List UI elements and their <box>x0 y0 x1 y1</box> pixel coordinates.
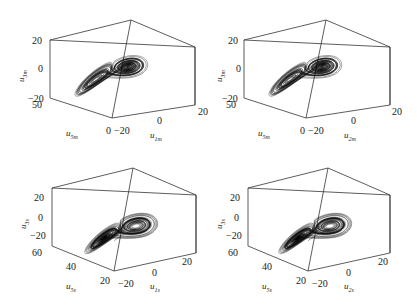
x-tick-label: 60 <box>228 248 238 258</box>
y-tick-label: 20 <box>182 257 192 267</box>
y-tick-label: 20 <box>198 107 208 117</box>
y-tick-label: 20 <box>378 257 388 267</box>
x-tick-label: 60 <box>32 248 42 258</box>
y-axis-label: u2s <box>344 281 354 293</box>
y-tick-label: −20 <box>312 279 328 289</box>
y-axis-label: u2m <box>344 130 356 142</box>
z-tick-label: 20 <box>34 193 44 203</box>
x-axis-label: u5m <box>66 128 78 140</box>
x-axis-label: u5s <box>66 281 76 293</box>
x-tick-label: 40 <box>262 262 272 272</box>
z-tick-label: 0 <box>38 213 43 223</box>
z-tick-label: 0 <box>234 213 239 223</box>
z-tick-label: 0 <box>38 64 43 74</box>
plot-panel-bottom-left: 200−20604020−20020u3su5su1s <box>0 153 208 306</box>
plot-panel-top-right: 200−20500−20020u3mu5mu2m <box>208 0 416 153</box>
y-axis-label: u1s <box>150 281 160 293</box>
x-tick-label: 20 <box>296 276 306 286</box>
z-tick-label: 0 <box>236 64 241 74</box>
z-axis-label: u3m <box>214 70 226 82</box>
plot-panel-top-left: 200−20500−20020u3mu5mu1m <box>0 0 208 153</box>
x-tick-label: 50 <box>32 100 42 110</box>
plot-canvas <box>0 0 208 153</box>
y-tick-label: −20 <box>308 126 324 136</box>
x-axis-label: u5m <box>258 128 270 140</box>
z-tick-label: −20 <box>30 231 46 241</box>
y-tick-label: 20 <box>392 107 402 117</box>
y-tick-label: 0 <box>157 116 162 126</box>
z-tick-label: −20 <box>226 231 242 241</box>
y-axis-label: u1m <box>150 130 162 142</box>
plot-panel-bottom-right: 200−20604020−20020u3su5su2s <box>208 153 416 306</box>
y-tick-label: 0 <box>152 268 157 278</box>
y-tick-label: −20 <box>114 126 130 136</box>
attractor-trajectory <box>269 56 342 97</box>
x-axis-label: u5s <box>262 281 272 293</box>
x-tick-label: 0 <box>106 126 111 136</box>
z-axis-label: u3s <box>18 219 30 229</box>
y-tick-label: −20 <box>118 279 134 289</box>
z-axis-label: u3s <box>214 219 226 229</box>
x-tick-label: 20 <box>100 276 110 286</box>
z-tick-label: 20 <box>230 193 240 203</box>
z-tick-label: 20 <box>32 36 42 46</box>
x-tick-label: 50 <box>226 100 236 110</box>
y-tick-label: 0 <box>351 116 356 126</box>
x-tick-label: 0 <box>300 126 305 136</box>
z-axis-label: u3m <box>16 70 28 82</box>
y-tick-label: 0 <box>346 268 351 278</box>
x-tick-label: 40 <box>66 262 76 272</box>
attractor-trajectory <box>75 56 148 97</box>
z-tick-label: 20 <box>228 36 238 46</box>
